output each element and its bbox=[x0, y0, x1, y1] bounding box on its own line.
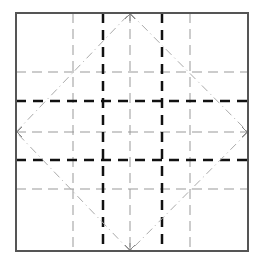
crease-pattern-diagram bbox=[0, 0, 260, 266]
diagonal-fold-line bbox=[130, 132, 248, 251]
valley-fold-lines bbox=[16, 13, 248, 251]
arrow-top-icon bbox=[125, 14, 135, 21]
arrow-bottom-icon bbox=[125, 243, 135, 250]
